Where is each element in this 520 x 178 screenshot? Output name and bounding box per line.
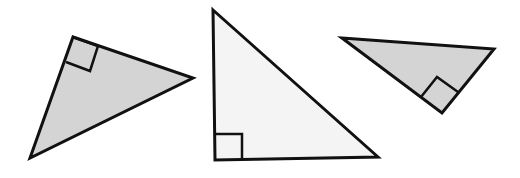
triangle-right [342,38,494,113]
triangle-middle [213,10,378,160]
triangles-diagram [0,0,520,178]
triangle-left [30,37,193,158]
